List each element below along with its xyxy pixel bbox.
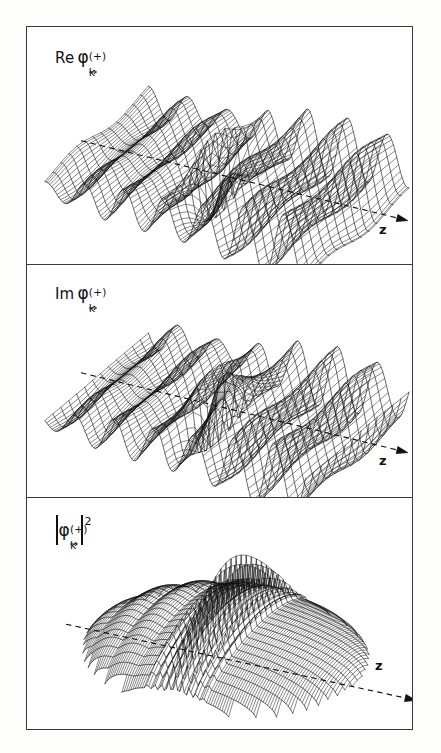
re-z-axis-label: z xyxy=(379,222,387,237)
im-subscript-group: k xyxy=(89,303,96,314)
re-subscript-group: k xyxy=(89,67,96,78)
vector-arrow-icon xyxy=(89,305,98,310)
abs2-panel: φ (+) k 2 z xyxy=(27,498,412,727)
im-panel: Imφ (+) k z xyxy=(27,265,412,498)
im-superscript: (+) xyxy=(89,287,107,298)
figure-frame: Reφ (+) k z Imφ (+) xyxy=(26,26,413,730)
im-z-axis-label: z xyxy=(379,453,387,468)
re-superscript: (+) xyxy=(89,51,107,62)
abs2-z-axis-label: z xyxy=(375,658,383,673)
abs2-subscript-group: k xyxy=(70,540,77,551)
vector-arrow-icon xyxy=(70,541,79,546)
abs2-panel-label: φ (+) k 2 xyxy=(55,516,91,546)
re-operator-text: Re xyxy=(55,49,77,67)
re-phi-symbol: φ xyxy=(77,47,88,67)
abs-bar-right-icon xyxy=(81,515,83,545)
re-panel: Reφ (+) k z xyxy=(27,27,412,265)
re-panel-label: Reφ (+) k xyxy=(55,49,89,67)
im-phi-symbol: φ xyxy=(77,283,88,303)
abs2-exponent: 2 xyxy=(85,515,92,528)
abs2-phi-symbol: φ xyxy=(59,520,70,540)
vector-arrow-icon xyxy=(89,69,98,74)
abs-bar-left-icon xyxy=(56,515,58,545)
im-operator-text: Im xyxy=(55,285,77,303)
im-panel-label: Imφ (+) k xyxy=(55,285,89,303)
